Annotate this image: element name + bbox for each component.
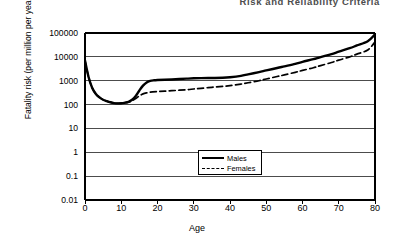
legend-item-males: Males xyxy=(202,153,258,163)
legend-label-females: Females xyxy=(227,164,255,173)
legend-line-solid-icon xyxy=(202,154,224,162)
legend-item-females: Females xyxy=(202,163,258,173)
legend-label-males: Males xyxy=(227,154,247,163)
fatality-risk-by-age-chart: Fatality risk (per million per year) Age… xyxy=(0,0,394,249)
plot-area xyxy=(0,0,394,249)
legend-line-dashed-icon xyxy=(202,164,224,172)
chart-legend: Males Females xyxy=(198,150,262,175)
